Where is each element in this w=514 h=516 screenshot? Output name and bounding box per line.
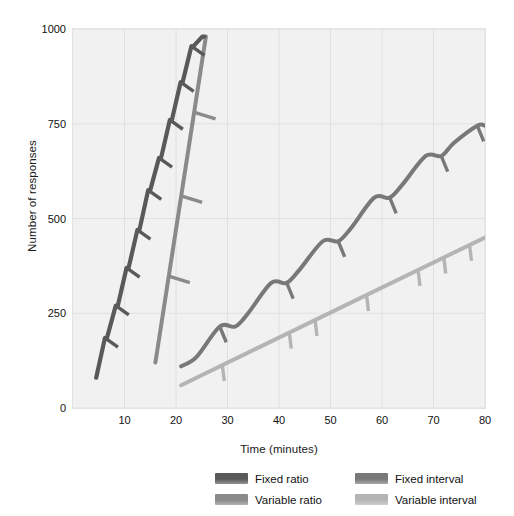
y-axis-tick-label: 0 xyxy=(24,402,66,414)
reinforcer-mark xyxy=(137,230,150,239)
legend-item-fixed-interval[interactable]: Fixed interval xyxy=(355,473,514,485)
series-fixed-interval xyxy=(181,124,485,366)
reinforcer-mark xyxy=(390,198,396,214)
chart-figure: Number of responses 02505007501000 10203… xyxy=(0,0,514,516)
legend-swatch-icon xyxy=(355,473,388,484)
series-variable-interval xyxy=(181,237,485,385)
reinforcer-mark xyxy=(169,276,190,283)
reinforcer-mark xyxy=(181,196,202,203)
reinforcer-mark xyxy=(222,365,224,381)
x-axis-tick-label: 80 xyxy=(465,414,505,426)
reinforcer-mark xyxy=(287,283,293,299)
x-axis-title: Time (minutes) xyxy=(73,443,485,455)
reinforcer-mark xyxy=(444,258,446,274)
x-axis-tick-label: 20 xyxy=(156,414,196,426)
x-axis-tick-label: 50 xyxy=(311,414,351,426)
legend-item-variable-interval[interactable]: Variable interval xyxy=(355,494,514,506)
chart-legend: Fixed ratioFixed intervalVariable ratioV… xyxy=(215,468,514,510)
legend-label: Variable interval xyxy=(395,494,477,506)
plot-area xyxy=(73,29,485,408)
reinforcer-mark xyxy=(338,241,344,257)
gridlines xyxy=(73,29,485,408)
y-axis-tick-label: 1000 xyxy=(24,23,66,35)
y-axis-tick-label: 250 xyxy=(24,307,66,319)
legend-item-variable-ratio[interactable]: Variable ratio xyxy=(215,494,355,506)
reinforcer-mark xyxy=(220,327,226,343)
x-axis-tick-label: 70 xyxy=(414,414,454,426)
x-axis-tick-label: 10 xyxy=(105,414,145,426)
reinforcer-mark xyxy=(315,320,317,336)
legend-swatch-icon xyxy=(215,494,248,505)
reinforcer-mark xyxy=(441,156,447,172)
reinforcer-mark xyxy=(195,112,216,119)
reinforcer-mark xyxy=(127,268,140,277)
reinforcer-mark xyxy=(159,158,172,167)
legend-swatch-icon xyxy=(215,473,248,484)
legend-item-fixed-ratio[interactable]: Fixed ratio xyxy=(215,473,355,485)
x-axis-tick-label: 40 xyxy=(259,414,299,426)
y-axis-tick-label: 500 xyxy=(24,213,66,225)
legend-swatch-icon xyxy=(355,494,388,505)
x-axis-tick-label: 60 xyxy=(362,414,402,426)
reinforcer-mark xyxy=(181,82,194,91)
plot-canvas xyxy=(73,29,485,408)
legend-label: Fixed interval xyxy=(395,473,463,485)
reinforcer-mark xyxy=(148,190,161,199)
y-axis-tick-label: 750 xyxy=(24,118,66,130)
series-fixed-ratio xyxy=(96,37,204,378)
series-line xyxy=(181,237,485,385)
reinforcer-mark xyxy=(289,333,291,349)
y-axis-tick-labels: 02505007501000 xyxy=(12,0,66,516)
reinforcer-mark xyxy=(367,295,369,311)
reinforcer-mark xyxy=(105,338,118,347)
reinforcer-mark xyxy=(477,126,483,142)
series-line xyxy=(181,124,485,366)
legend-label: Fixed ratio xyxy=(255,473,309,485)
legend-label: Variable ratio xyxy=(255,494,322,506)
reinforcer-mark xyxy=(418,270,420,286)
x-axis-tick-label: 30 xyxy=(208,414,248,426)
reinforcer-mark xyxy=(470,245,472,261)
